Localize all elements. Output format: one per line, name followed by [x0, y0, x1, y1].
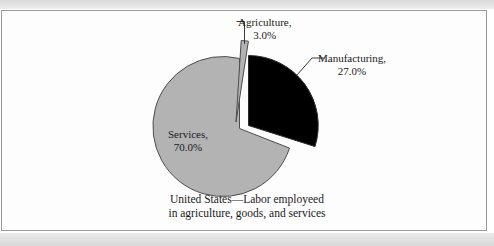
chart-caption-line-1: United States—Labor employeed — [97, 192, 397, 206]
chart-caption-line-2: in agriculture, goods, and services — [97, 206, 397, 220]
pie-label-manufacturing: Manufacturing, 27.0% — [318, 52, 386, 78]
pie-label-agriculture-name: Agriculture, — [238, 16, 291, 29]
pie-label-services: Services, 70.0% — [168, 128, 208, 154]
pie-label-manufacturing-percent: 27.0% — [318, 65, 386, 78]
pie-label-manufacturing-name: Manufacturing, — [318, 52, 386, 65]
pie-label-agriculture: Agriculture, 3.0% — [238, 16, 291, 42]
figure-root: Agriculture, 3.0% Manufacturing, 27.0% S… — [0, 0, 494, 246]
pie-label-agriculture-percent: 3.0% — [238, 29, 291, 42]
pie-slice-manufacturing[interactable] — [249, 56, 319, 147]
pie-label-services-percent: 70.0% — [168, 141, 208, 154]
pie-label-services-name: Services, — [168, 128, 208, 141]
chart-caption: United States—Labor employeed in agricul… — [97, 192, 397, 220]
